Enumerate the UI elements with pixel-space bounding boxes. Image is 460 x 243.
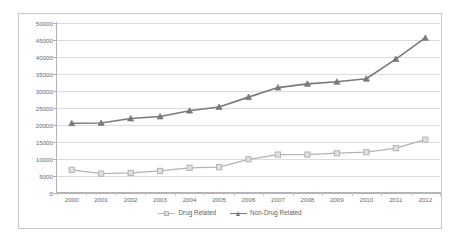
y-tick-label: 40000: [20, 54, 53, 61]
y-tick-label-text: 20000: [36, 122, 53, 129]
legend-swatch-icon: [158, 210, 175, 217]
data-point: [423, 137, 428, 142]
y-tick-label: 50000: [20, 20, 53, 27]
data-point: [158, 168, 163, 173]
y-tick-label-text: 45000: [36, 37, 53, 44]
legend-label: Drug Related: [178, 209, 216, 217]
data-point: [275, 152, 280, 157]
y-tickmark: [53, 74, 56, 75]
y-tick-label-text: 5000: [39, 173, 53, 180]
series-line: [72, 38, 426, 123]
data-point: [422, 35, 428, 40]
legend-marker: [236, 211, 240, 216]
legend-item-non-drug-related[interactable]: Non-Drug Related: [230, 209, 302, 217]
x-tickmark: [263, 193, 264, 196]
x-tickmark: [381, 193, 382, 196]
x-tickmark: [411, 193, 412, 196]
x-tickmark: [352, 193, 353, 196]
series-drug-related: [69, 137, 428, 176]
y-tick-label: 5000: [20, 173, 53, 180]
y-tick-label: 25000: [20, 105, 53, 112]
series-non-drug-related: [69, 35, 429, 126]
y-tickmark: [53, 176, 56, 177]
legend-marker: [164, 211, 169, 216]
y-tickmark: [53, 159, 56, 160]
x-tickmark: [234, 193, 235, 196]
y-tick-label: 30000: [20, 88, 53, 95]
y-tick-label: 0: [20, 190, 53, 197]
x-tickmark: [145, 193, 146, 196]
data-point: [334, 151, 339, 156]
y-tick-label-text: 30000: [36, 88, 53, 95]
y-tick-label-text: 25000: [36, 105, 53, 112]
y-tick-label-text: 15000: [36, 139, 53, 146]
y-tick-label: 35000: [20, 71, 53, 78]
data-point: [128, 170, 133, 175]
y-tickmark: [53, 142, 56, 143]
x-tickmark: [293, 193, 294, 196]
x-tickmark: [204, 193, 205, 196]
y-tick-label-text: 10000: [36, 156, 53, 163]
x-tickmark: [322, 193, 323, 196]
data-point: [69, 167, 74, 172]
legend-item-drug-related[interactable]: Drug Related: [158, 209, 216, 217]
data-point: [187, 165, 192, 170]
chart-legend: Drug RelatedNon-Drug Related: [0, 209, 460, 217]
x-tickmark: [116, 193, 117, 196]
y-tickmark: [53, 40, 56, 41]
y-tickmark: [53, 125, 56, 126]
y-tick-label-text: 35000: [36, 71, 53, 78]
y-tick-label: 15000: [20, 139, 53, 146]
x-tick-label: 2012: [408, 196, 442, 204]
y-tick-label: 20000: [20, 122, 53, 129]
data-point: [99, 171, 104, 176]
y-tick-label: 45000: [20, 37, 53, 44]
legend-swatch-icon: [230, 210, 247, 217]
x-tickmark: [175, 193, 176, 196]
x-tickmark: [440, 193, 441, 196]
y-tickmark: [53, 57, 56, 58]
data-point: [364, 150, 369, 155]
y-tick-label-text: 40000: [36, 54, 53, 61]
chart-container: 0500010000150002000025000300003500040000…: [0, 0, 460, 243]
y-tickmark: [53, 91, 56, 92]
data-series-layer: [57, 23, 440, 193]
legend-label: Non-Drug Related: [250, 209, 302, 217]
data-point: [216, 165, 221, 170]
y-tickmark: [53, 108, 56, 109]
data-point: [246, 157, 251, 162]
gridline: [57, 193, 440, 194]
y-tick-label: 10000: [20, 156, 53, 163]
y-tickmark: [53, 193, 56, 194]
data-point: [305, 152, 310, 157]
y-tick-label-text: 50000: [36, 20, 53, 27]
data-point: [393, 146, 398, 151]
x-tickmark: [86, 193, 87, 196]
y-tickmark: [53, 23, 56, 24]
x-tickmark: [57, 193, 58, 196]
